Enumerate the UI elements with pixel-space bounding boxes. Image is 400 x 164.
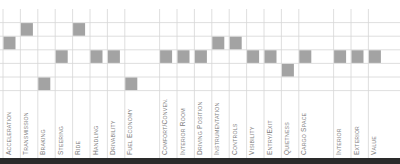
category-label: ACCELERATION bbox=[5, 112, 12, 155]
category-label: INTERIOR bbox=[335, 128, 342, 155]
category-label: RIDE bbox=[74, 140, 81, 155]
rating-square-value bbox=[369, 50, 381, 63]
rating-square-drivability bbox=[108, 50, 120, 63]
category-label: HANDLING bbox=[92, 126, 99, 155]
rating-square-entry-exit bbox=[265, 50, 277, 63]
rating-square-driving-position bbox=[195, 50, 207, 63]
category-label: VALUE bbox=[370, 136, 377, 155]
rating-square-transmission bbox=[21, 23, 33, 36]
rating-square-handling bbox=[91, 50, 103, 63]
category-label: DRIVING POSITION bbox=[196, 102, 203, 155]
rating-square-controls bbox=[230, 37, 242, 50]
rating-square-interior bbox=[334, 50, 346, 63]
rating-square-visibility bbox=[247, 50, 259, 63]
category-label: COMFORT/CONVEN. bbox=[161, 98, 168, 155]
rating-square-steering bbox=[56, 50, 68, 63]
rating-square-fuel-economy bbox=[125, 78, 137, 91]
category-label: FUEL ECONOMY bbox=[126, 109, 133, 155]
rating-square-comfort-conven bbox=[160, 50, 172, 63]
category-label: ENTRY/EXIT bbox=[266, 120, 273, 155]
bottom-bar bbox=[0, 158, 400, 164]
category-label: EXTERIOR bbox=[353, 126, 360, 155]
category-label: QUIETNESS bbox=[283, 122, 291, 155]
rating-square-interior-room bbox=[178, 50, 190, 63]
rating-squares bbox=[4, 23, 381, 90]
rating-square-braking bbox=[38, 78, 50, 91]
category-label: INSTRUMENTATION bbox=[213, 102, 220, 155]
category-label: STEERING bbox=[57, 126, 64, 155]
category-labels: ACCELERATIONTRANSMISSIONBRAKINGSTEERINGR… bbox=[5, 98, 377, 155]
ratings-chart: ACCELERATIONTRANSMISSIONBRAKINGSTEERINGR… bbox=[0, 0, 400, 164]
category-label: INTERIOR ROOM bbox=[179, 108, 186, 155]
category-label: VISIBILITY bbox=[248, 126, 255, 155]
category-label: TRANSMISSION bbox=[22, 112, 29, 155]
rating-square-cargo-space bbox=[299, 50, 311, 63]
category-label: DRIVABILITY bbox=[109, 120, 116, 155]
category-label: CARGO SPACE bbox=[300, 112, 307, 155]
category-label: CONTROLS bbox=[231, 123, 238, 155]
rating-square-quietness bbox=[282, 64, 294, 77]
rating-square-ride bbox=[73, 23, 85, 36]
rating-square-exterior bbox=[352, 50, 364, 63]
rating-square-acceleration bbox=[4, 37, 16, 50]
category-label: BRAKING bbox=[39, 129, 46, 155]
rating-square-instrumentation bbox=[212, 37, 224, 50]
